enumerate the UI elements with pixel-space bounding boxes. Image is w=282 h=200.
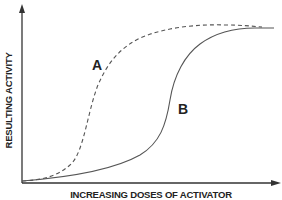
axes xyxy=(19,4,281,186)
curve-a-label: A xyxy=(92,57,102,73)
curve-b-solid xyxy=(22,28,274,181)
curve-b-label: B xyxy=(178,101,188,117)
x-axis-label: INCREASING DOSES OF ACTIVATOR xyxy=(66,189,236,200)
curve-a-dashed xyxy=(22,25,262,181)
y-axis-arrow-icon xyxy=(19,4,25,13)
x-axis-arrow-icon xyxy=(271,180,281,186)
y-axis-label: RESULTING ACTIVITY xyxy=(3,57,14,149)
dose-response-diagram xyxy=(0,0,282,200)
